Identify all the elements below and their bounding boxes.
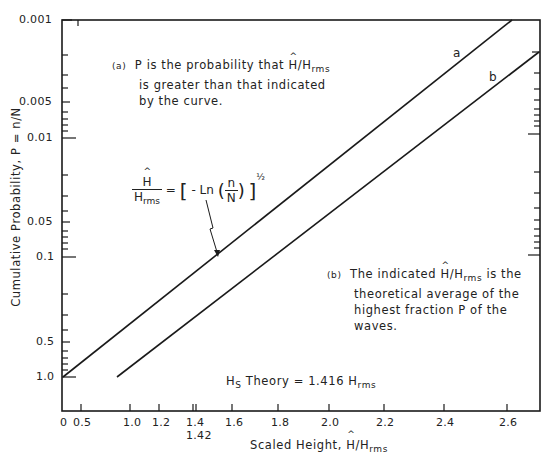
note-a-line3: by the curve.	[112, 94, 223, 108]
formula-num: H	[143, 175, 152, 189]
hs-rms-sub: rms	[358, 380, 377, 390]
x-tick-1.2: 1.2	[152, 416, 170, 429]
x-axis-ticks	[81, 404, 507, 411]
hs-var: H	[226, 374, 235, 388]
note-a: (a) P is the probability that H/Hrms is …	[112, 57, 330, 109]
formula-inner: nN	[225, 176, 238, 205]
x-tick-2.0: 2.0	[321, 416, 339, 429]
formula-eq: =	[166, 183, 176, 197]
note-b-line3: highest fraction P of the	[327, 303, 507, 317]
y-tick-0.01: 0.01	[27, 131, 53, 144]
x-axis-slash: /H	[355, 438, 369, 452]
x-axis-var: H	[346, 438, 355, 452]
x-axis-label: Scaled Height, H/Hrms	[250, 438, 388, 454]
formula-close: ]	[249, 179, 257, 203]
curve-a-label: a	[453, 46, 460, 60]
y-tick-0.001: 0.001	[19, 13, 52, 26]
x-tick-2.2: 2.2	[376, 416, 394, 429]
note-a-tag: (a)	[112, 61, 126, 71]
x-tick-1.42: 1.42	[186, 429, 212, 442]
note-a-slash: /H	[298, 58, 312, 72]
note-b-sub: rms	[463, 273, 482, 283]
x-tick-1.6: 1.6	[225, 416, 243, 429]
y-axis-label-main: Cumulative Probability,	[9, 159, 23, 307]
y-axis-label-eq: P = n/N	[9, 107, 23, 155]
y-tick-0.1: 0.1	[36, 250, 54, 263]
x-tick-1.0: 1.0	[123, 416, 141, 429]
formula-inner-den: N	[225, 191, 238, 205]
formula-den: H	[134, 190, 143, 204]
y-tick-0.5: 0.5	[36, 335, 54, 348]
note-b-slash: /H	[450, 267, 464, 281]
x-tick-1.4: 1.4	[186, 416, 204, 429]
formula-ln: - Ln	[191, 183, 213, 197]
note-b-line1-post: is the	[486, 267, 521, 281]
curve-b-label: b	[489, 70, 497, 84]
note-a-var: H	[288, 57, 297, 73]
formula-den-sub: rms	[143, 196, 160, 206]
x-tick-0: 0	[60, 416, 67, 429]
note-b: (b) The indicated H/Hrms is the theoreti…	[327, 266, 522, 334]
x-axis-label-main: Scaled Height,	[250, 438, 342, 452]
formula-inner-num: n	[225, 176, 238, 191]
note-a-line2: is greater than that indicated	[112, 78, 326, 92]
arrow-icon	[206, 200, 217, 252]
y-tick-1.0: 1.0	[36, 370, 54, 383]
x-axis-sub: rms	[369, 444, 388, 454]
x-tick-2.4: 2.4	[436, 416, 454, 429]
hs-sub: S	[235, 380, 241, 390]
note-b-line4: waves.	[327, 319, 398, 333]
note-a-sub: rms	[311, 64, 330, 74]
hs-text: Theory = 1.416 H	[246, 374, 358, 388]
right-axis-ticks	[528, 52, 540, 255]
note-b-line2: theoretical average of the	[327, 287, 519, 301]
y-axis-label: Cumulative Probability, P = n/N	[9, 107, 23, 307]
formula-fraction: H Hrms	[132, 175, 162, 206]
x-tick-0.5: 0.5	[73, 416, 91, 429]
note-b-line1: The indicated	[350, 267, 436, 281]
formula: H Hrms = [ - Ln (nN) ]½	[132, 172, 265, 206]
formula-exp: ½	[256, 172, 265, 182]
note-b-var: H	[440, 266, 449, 282]
x-tick-2.6: 2.6	[499, 416, 517, 429]
y-tick-0.005: 0.005	[19, 95, 52, 108]
y-tick-0.05: 0.05	[27, 215, 53, 228]
y-axis-ticks	[62, 20, 78, 377]
hs-theory-label: HS Theory = 1.416 Hrms	[226, 373, 376, 393]
note-b-tag: (b)	[327, 270, 342, 280]
x-tick-1.8: 1.8	[271, 416, 289, 429]
note-a-line1: P is the probability that	[135, 58, 284, 72]
